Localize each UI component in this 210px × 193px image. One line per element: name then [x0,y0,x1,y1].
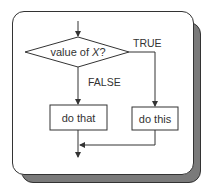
true-label: TRUE [133,37,162,49]
action-do-that: do that [50,105,107,130]
decision-label: value of X? [50,46,105,58]
true-branch-line [129,52,155,106]
svg-text:do this: do this [139,113,172,125]
svg-text:do that: do that [62,112,96,124]
flowchart: value of X? TRUE FALSE do that do this [0,0,210,193]
false-label: FALSE [88,76,121,88]
decision-node: value of X? [25,37,129,67]
action-do-this: do this [132,107,178,130]
merge-line [80,130,155,145]
